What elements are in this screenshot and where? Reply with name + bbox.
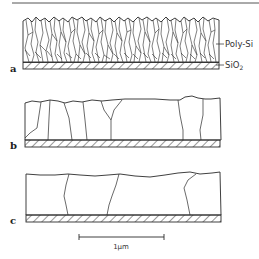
panel-b: b bbox=[10, 96, 221, 151]
scale-bar-label: 1μm bbox=[113, 243, 129, 251]
panel-label-c: c bbox=[10, 215, 16, 226]
poly-si-layer-c bbox=[26, 172, 221, 215]
scale-bar: 1μm bbox=[79, 234, 164, 251]
sio2-layer-c bbox=[26, 215, 221, 222]
sio2-layer-b bbox=[25, 140, 220, 147]
figure-canvas: a Poly-Si SiO2 b c bbox=[0, 0, 259, 259]
panel-label-b: b bbox=[10, 140, 17, 151]
poly-si-label: Poly-Si bbox=[225, 39, 253, 49]
panel-c: c bbox=[10, 172, 221, 226]
panel-a: a Poly-Si SiO2 bbox=[10, 17, 253, 74]
sio2-label: SiO2 bbox=[225, 60, 243, 71]
poly-si-layer-b bbox=[25, 96, 221, 140]
panel-label-a: a bbox=[10, 63, 17, 74]
sio2-layer-a bbox=[23, 63, 219, 70]
